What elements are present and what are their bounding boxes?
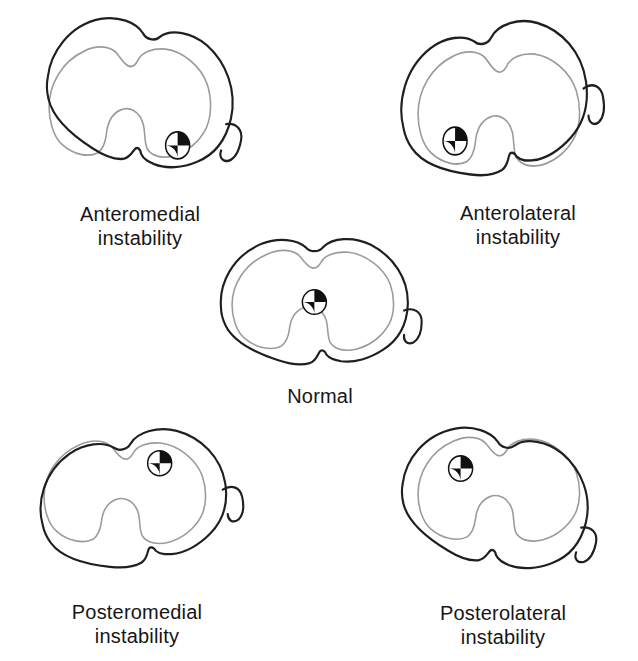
tibia-cortex-outline (391, 415, 600, 583)
center-of-rotation-marker (148, 451, 172, 476)
panel-label-line2: instability (440, 625, 566, 649)
panel-label-posteromedial: Posteromedialinstability (72, 600, 202, 648)
center-of-rotation-marker (443, 127, 467, 155)
tibia-cross-section-anterolateral (394, 24, 616, 200)
panel-label-line1: Anterolateral (460, 201, 576, 225)
fibular-head-bump (219, 123, 243, 164)
panel-label-line2: instability (80, 226, 200, 250)
tibia-cross-section-posteromedial (20, 416, 242, 574)
displaced-tibia-outline (29, 414, 251, 583)
panel-label-anteromedial: Anteromedialinstability (80, 202, 200, 250)
panel-label-line1: Normal (287, 384, 353, 408)
panel-label-posterolateral: Posterolateralinstability (440, 601, 566, 649)
tibia-cross-section-anteromedial (25, 20, 247, 190)
panel-label-line1: Posterolateral (440, 601, 566, 625)
tibia-cortex-outline (390, 8, 599, 193)
panel-label-anterolateral: Anterolateralinstability (460, 201, 576, 249)
tibia-cross-section-posterolateral (394, 412, 616, 572)
panel-label-line1: Anteromedial (80, 202, 200, 226)
articular-margin-outline (418, 52, 580, 166)
center-of-rotation-marker (449, 456, 473, 481)
tibia-cortex-outline (36, 4, 245, 183)
panel-label-line1: Posteromedial (72, 600, 202, 624)
center-of-rotation-marker (166, 132, 190, 159)
articular-margin-outline (44, 441, 206, 543)
displaced-tibia-outline (36, 4, 258, 186)
center-of-rotation-marker (302, 290, 326, 314)
panel-label-line2: instability (72, 624, 202, 648)
fibular-head-bump (574, 526, 598, 564)
knee-rotatory-instability-diagram: AnteromedialinstabilityAnterolateralinst… (0, 0, 638, 661)
panel-label-line2: instability (460, 225, 576, 249)
panel-label-normal: Normal (287, 384, 353, 408)
articular-margin-outline (418, 437, 580, 541)
tibia-cross-section-normal (208, 226, 430, 380)
